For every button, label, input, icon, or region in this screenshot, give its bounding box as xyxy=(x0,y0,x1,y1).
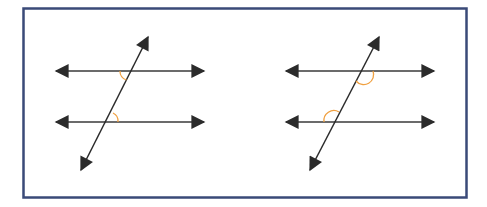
frame-border xyxy=(24,9,467,198)
parallel-lines-diagram xyxy=(0,0,487,207)
